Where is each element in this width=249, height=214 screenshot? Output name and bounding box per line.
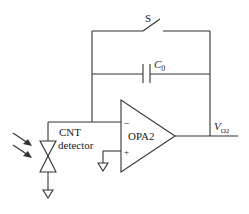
cnt-detector bbox=[40, 122, 56, 198]
inverting-input-sign: − bbox=[124, 118, 130, 129]
switch-label: S bbox=[145, 12, 151, 24]
detector-label-line2: detector bbox=[58, 139, 94, 151]
output-label: VO2 bbox=[214, 120, 230, 135]
capacitor-c0 bbox=[92, 64, 210, 83]
light-arrows-icon bbox=[13, 133, 32, 158]
capacitor-label: C0 bbox=[154, 58, 165, 73]
noninverting-input-sign: + bbox=[124, 147, 129, 157]
detector-label-line1: CNT bbox=[59, 126, 81, 138]
circuit-diagram: S C0 OPA2 − + VO2 bbox=[0, 0, 249, 214]
opamp-label: OPA2 bbox=[128, 130, 155, 142]
